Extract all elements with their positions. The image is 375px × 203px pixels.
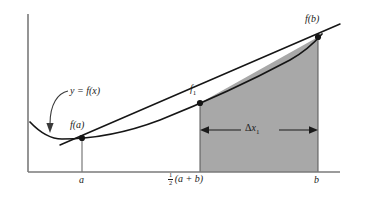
delta-x-label: Δx1 [245,123,259,136]
fraction-denominator: 2 [168,180,173,187]
curve-equation-label: y = f(x) [70,86,100,96]
point-b-label: f(b) [305,14,319,24]
curve-label-arrowhead [46,123,53,133]
marker-point-b [315,34,321,40]
point-mid-label-subscript: 1 [193,89,197,97]
x-tick-label-b: b [314,175,319,185]
point-a-label: f(a) [70,120,84,130]
delta-subscript: 1 [256,128,260,136]
midpoint-expression: (a + b) [175,174,203,184]
curve-label-leader-arrow [50,91,68,124]
one-half-fraction: 12 [168,172,173,187]
marker-point-a [79,135,85,141]
fraction-numerator: 1 [168,172,173,179]
shaded-trapezoid [200,37,318,172]
x-tick-label-a: a [79,175,84,185]
marker-point-mid [197,100,203,106]
trapezoidal-rule-figure: y = f(x) f(a) f1 f(b) a b 12(a + b) Δx1 [0,0,375,203]
point-mid-label: f1 [190,84,196,97]
x-tick-label-midpoint: 12(a + b) [168,172,203,187]
